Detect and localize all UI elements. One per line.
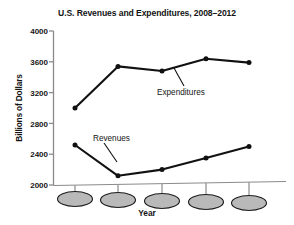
- chart-container: U.S. Revenues and Expenditures, 2008–201…: [0, 0, 294, 225]
- x-tick-pills: [58, 192, 267, 211]
- y-axis-ticks: [49, 31, 54, 185]
- leader-line-revenues: [104, 143, 117, 162]
- leader-line-expenditures: [174, 68, 184, 86]
- x-axis-line: [54, 182, 287, 186]
- series-markers-revenues: [73, 143, 252, 179]
- series-line-expenditures: [75, 59, 249, 108]
- plot-area: [0, 0, 294, 225]
